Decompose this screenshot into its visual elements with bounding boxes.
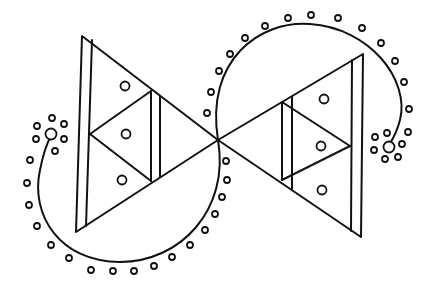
dot-icon <box>151 263 157 269</box>
dot-icon <box>49 115 55 121</box>
dot-icon <box>395 154 401 160</box>
dot-icon <box>308 12 314 18</box>
dot-icon <box>335 15 341 21</box>
dot-icon <box>359 25 365 31</box>
dot-icon <box>48 242 54 248</box>
dot-icon <box>378 40 384 46</box>
dot-icon <box>27 157 33 163</box>
dot-icon <box>34 123 40 129</box>
dot-icon <box>208 89 214 95</box>
dot-icon <box>33 136 39 142</box>
right-inner-vertical <box>351 60 352 231</box>
dot-icon <box>262 23 268 29</box>
dot-icon <box>401 79 407 85</box>
curl-end-circle-icon <box>384 142 395 153</box>
dot-icon <box>219 194 225 200</box>
right-outer-triangle <box>218 54 363 237</box>
veve-drawing <box>0 0 441 285</box>
left-triangle <box>76 36 218 232</box>
dot-icon <box>223 158 229 164</box>
dot-icon <box>24 180 30 186</box>
dot-icon <box>131 268 137 274</box>
dot-icon <box>216 68 222 74</box>
dot-icon <box>285 15 291 21</box>
dot-icon <box>212 211 218 217</box>
dot-icon <box>371 147 377 153</box>
left-circle-icon <box>121 82 130 91</box>
dot-icon <box>169 254 175 260</box>
dot-icon <box>405 129 411 135</box>
right-circle-icon <box>318 186 327 195</box>
spiral-curves <box>38 24 401 262</box>
dot-icon <box>382 156 388 162</box>
left-circle-icon <box>122 130 131 139</box>
dot-icon <box>202 227 208 233</box>
left-outer-triangle <box>76 36 218 232</box>
right-circle-icon <box>320 95 329 104</box>
dot-icon <box>187 242 193 248</box>
curl-end-circle-icon <box>46 129 57 140</box>
dot-icon <box>110 268 116 274</box>
dot-icon <box>406 106 412 112</box>
dot-icon <box>224 177 230 183</box>
dot-icon <box>61 121 67 127</box>
dot-icon <box>227 51 233 57</box>
dot-icon <box>88 267 94 273</box>
left-circle-icon <box>118 176 127 185</box>
dot-icon <box>392 58 398 64</box>
dot-icon <box>26 202 32 208</box>
dot-icon <box>399 141 405 147</box>
dot-icon <box>34 223 40 229</box>
left-diamond-lower <box>90 134 151 181</box>
upper-right-curl <box>216 24 401 145</box>
left-diamond-upper <box>90 91 151 134</box>
dot-icon <box>372 134 378 140</box>
dot-icon <box>384 130 390 136</box>
dot-icon <box>52 148 58 154</box>
right-circle-icon <box>317 142 326 151</box>
dot-icon <box>204 110 210 116</box>
dot-icon <box>61 136 67 142</box>
dot-icon <box>242 35 248 41</box>
dot-icon <box>66 255 72 261</box>
right-triangle <box>218 54 363 237</box>
